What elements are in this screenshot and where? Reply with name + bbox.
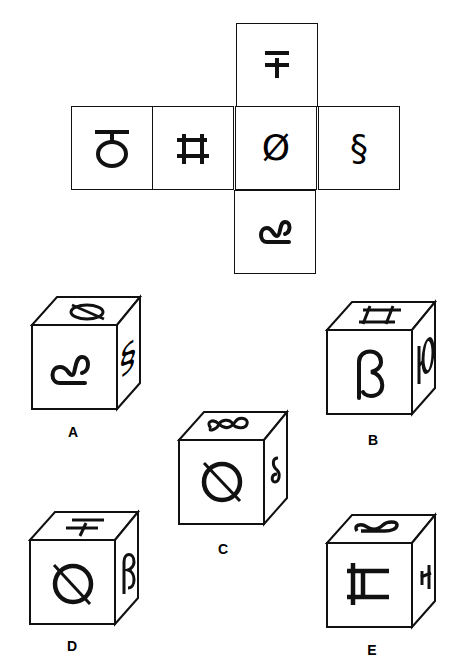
net-cell-far-left <box>71 106 153 190</box>
option-label-b: B <box>363 432 383 448</box>
section-sign-symbol: § <box>350 130 368 166</box>
net-cell-top <box>236 23 318 107</box>
circle-bar-glyph-icon <box>92 126 132 170</box>
option-label-c: C <box>213 541 233 557</box>
minus-plus-icon <box>257 45 297 85</box>
ladder-glyph-icon <box>173 128 213 168</box>
option-cube-c[interactable] <box>177 410 292 532</box>
option-cube-e[interactable] <box>325 513 440 635</box>
option-cube-d[interactable] <box>28 510 143 632</box>
option-cube-b[interactable] <box>325 300 440 422</box>
option-label-d: D <box>62 638 82 654</box>
net-cell-bottom <box>234 190 316 274</box>
option-label-a: A <box>63 424 83 440</box>
net-cell-left <box>152 106 234 190</box>
option-cube-a[interactable]: § <box>30 295 145 417</box>
slashed-o-symbol: Ø <box>262 130 290 166</box>
net-cell-center: Ø <box>235 106 317 190</box>
rotated-beta-glyph-icon <box>255 216 295 248</box>
net-cell-right: § <box>318 106 400 190</box>
option-label-e: E <box>362 642 382 658</box>
